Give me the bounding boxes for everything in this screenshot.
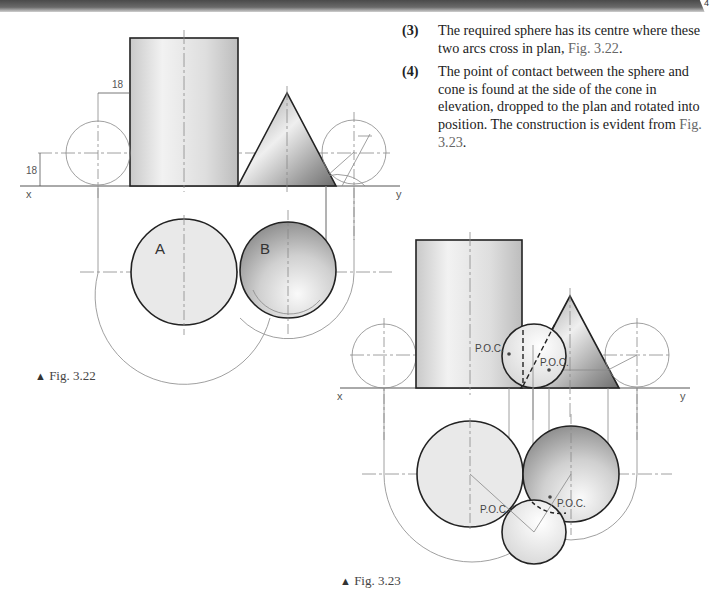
figure-caption-3-23: ▲ Fig. 3.23 <box>340 573 401 589</box>
poc-label: P.O.C. <box>540 357 569 368</box>
poc-label: P.O.C. <box>475 343 504 354</box>
y-label: y <box>396 188 402 200</box>
x-label: x <box>337 390 343 402</box>
sphere-elevation[interactable] <box>502 324 566 388</box>
fig-3-22-elevation: 18 18 x y <box>20 30 402 240</box>
triangle-icon: ▲ <box>35 370 46 382</box>
poc-label: P.O.C. <box>480 504 509 515</box>
label-b: B <box>260 240 270 257</box>
construction-line <box>327 152 354 176</box>
fig-3-23-plan: P.O.C. P.O.C. <box>362 388 672 564</box>
x-label: x <box>26 188 32 200</box>
construction-line <box>342 134 370 186</box>
poc-point <box>548 495 552 499</box>
triangle-icon: ▲ <box>340 575 351 587</box>
poc-point <box>507 352 511 356</box>
technical-drawings: 18 18 x y A B P.O.C. <box>0 0 711 593</box>
y-label: y <box>680 390 686 402</box>
fig-3-22-plan: A B <box>80 186 392 384</box>
dim-horizontal-label: 18 <box>112 79 124 90</box>
figure-caption-3-22: ▲ Fig. 3.22 <box>35 368 96 384</box>
dim-vertical-label: 18 <box>26 165 38 176</box>
label-a: A <box>155 240 165 257</box>
construction-line <box>608 355 637 370</box>
poc-point <box>547 368 551 372</box>
poc-label: P.O.C. <box>557 498 586 509</box>
